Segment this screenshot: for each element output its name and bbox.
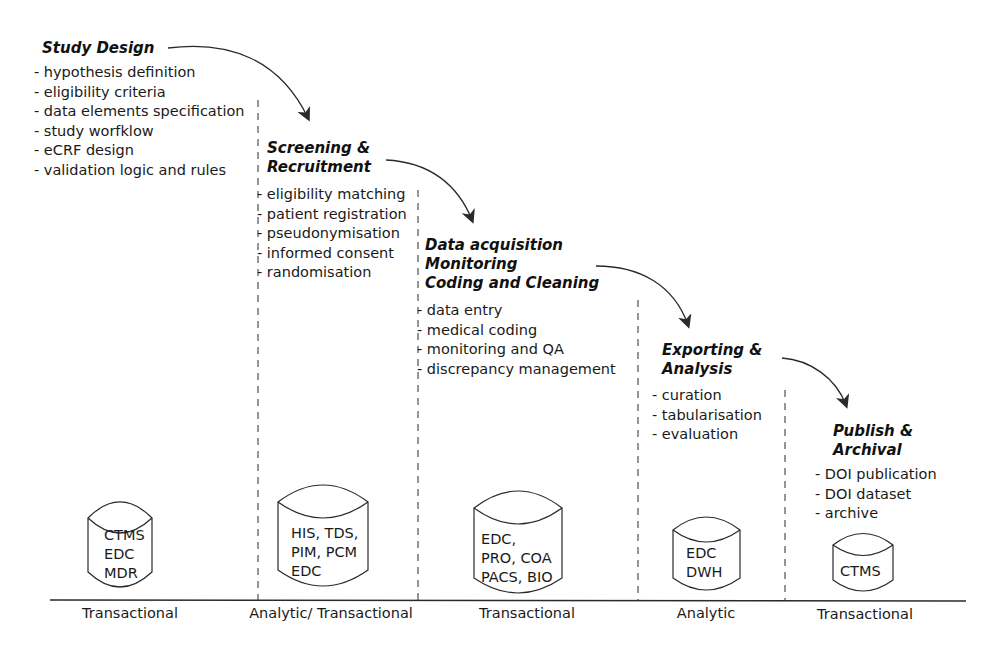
system-type-study-design: Transactional xyxy=(82,605,178,621)
phase-title-screening-recruitment: Screening & Recruitment xyxy=(267,139,371,177)
system-list-screening-recruitment: HIS, TDS, PIM, PCM EDC xyxy=(291,524,358,581)
task-item: archive xyxy=(815,504,937,524)
task-list-data-acquisition: data entry medical coding monitoring and… xyxy=(417,301,616,379)
task-item: DOI dataset xyxy=(815,485,937,505)
task-item: pseudonymisation xyxy=(257,224,407,244)
system-item: HIS, TDS, xyxy=(291,524,358,543)
flow-arrow-4 xyxy=(782,358,846,405)
system-item: EDC xyxy=(104,545,145,564)
task-list-screening-recruitment: eligibility matching patient registratio… xyxy=(257,185,407,283)
task-item: monitoring and QA xyxy=(417,340,616,360)
system-item: PRO, COA xyxy=(481,549,553,568)
system-item: EDC, xyxy=(481,530,553,549)
system-list-data-acquisition: EDC, PRO, COA PACS, BIO xyxy=(481,530,553,587)
system-item: PIM, PCM xyxy=(291,543,358,562)
system-item: CTMS xyxy=(104,526,145,545)
task-item: discrepancy management xyxy=(417,360,616,380)
system-item: DWH xyxy=(686,563,722,582)
task-item: data entry xyxy=(417,301,616,321)
task-list-publish-archival: DOI publication DOI dataset archive xyxy=(815,465,937,524)
system-item: PACS, BIO xyxy=(481,568,553,587)
task-item: medical coding xyxy=(417,321,616,341)
task-item: hypothesis definition xyxy=(34,63,245,83)
clinical-study-lifecycle-diagram: Study Design hypothesis definition eligi… xyxy=(0,0,996,654)
task-item: validation logic and rules xyxy=(34,161,245,181)
task-item: randomisation xyxy=(257,263,407,283)
task-item: informed consent xyxy=(257,244,407,264)
task-item: curation xyxy=(652,386,762,406)
task-item: tabularisation xyxy=(652,406,762,426)
system-item: CTMS xyxy=(840,562,881,581)
system-type-data-acquisition: Transactional xyxy=(479,605,575,621)
system-list-exporting-analysis: EDC DWH xyxy=(686,544,722,582)
system-item: MDR xyxy=(104,564,145,583)
system-list-study-design: CTMS EDC MDR xyxy=(104,526,145,583)
task-item: eligibility matching xyxy=(257,185,407,205)
baseline-axis xyxy=(50,600,966,601)
task-list-exporting-analysis: curation tabularisation evaluation xyxy=(652,386,762,445)
task-list-study-design: hypothesis definition eligibility criter… xyxy=(34,63,245,180)
task-item: study worfklow xyxy=(34,122,245,142)
phase-title-data-acquisition: Data acquisition Monitoring Coding and C… xyxy=(425,236,599,293)
task-item: eCRF design xyxy=(34,141,245,161)
phase-title-exporting-analysis: Exporting & Analysis xyxy=(662,341,762,379)
phase-title-study-design: Study Design xyxy=(42,39,155,58)
task-item: evaluation xyxy=(652,425,762,445)
task-item: data elements specification xyxy=(34,102,245,122)
task-item: DOI publication xyxy=(815,465,937,485)
system-list-publish-archival: CTMS xyxy=(840,562,881,581)
task-item: eligibility criteria xyxy=(34,83,245,103)
phase-title-publish-archival: Publish & Archival xyxy=(833,422,913,460)
system-type-publish-archival: Transactional xyxy=(817,606,913,622)
system-type-exporting-analysis: Analytic xyxy=(677,605,735,621)
system-item: EDC xyxy=(686,544,722,563)
system-type-screening-recruitment: Analytic/ Transactional xyxy=(249,605,413,621)
task-item: patient registration xyxy=(257,205,407,225)
system-item: EDC xyxy=(291,562,358,581)
